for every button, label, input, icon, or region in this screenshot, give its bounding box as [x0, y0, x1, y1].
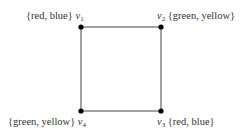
label-v2: v2 {green, yellow}	[157, 11, 235, 23]
colors-v4: {green, yellow}	[8, 116, 75, 127]
colors-v2: {green, yellow}	[168, 10, 235, 21]
label-v4: {green, yellow} v4	[8, 117, 86, 129]
label-v1: {red, blue} v1	[26, 11, 84, 23]
vertex-v2	[158, 24, 163, 29]
vertex-v3	[158, 108, 163, 113]
colors-v3: {red, blue}	[168, 116, 215, 127]
vertex-v1	[78, 24, 83, 29]
vertex-v4	[78, 108, 83, 113]
colors-v1: {red, blue}	[26, 10, 73, 21]
label-v3: v3 {red, blue}	[157, 117, 215, 129]
